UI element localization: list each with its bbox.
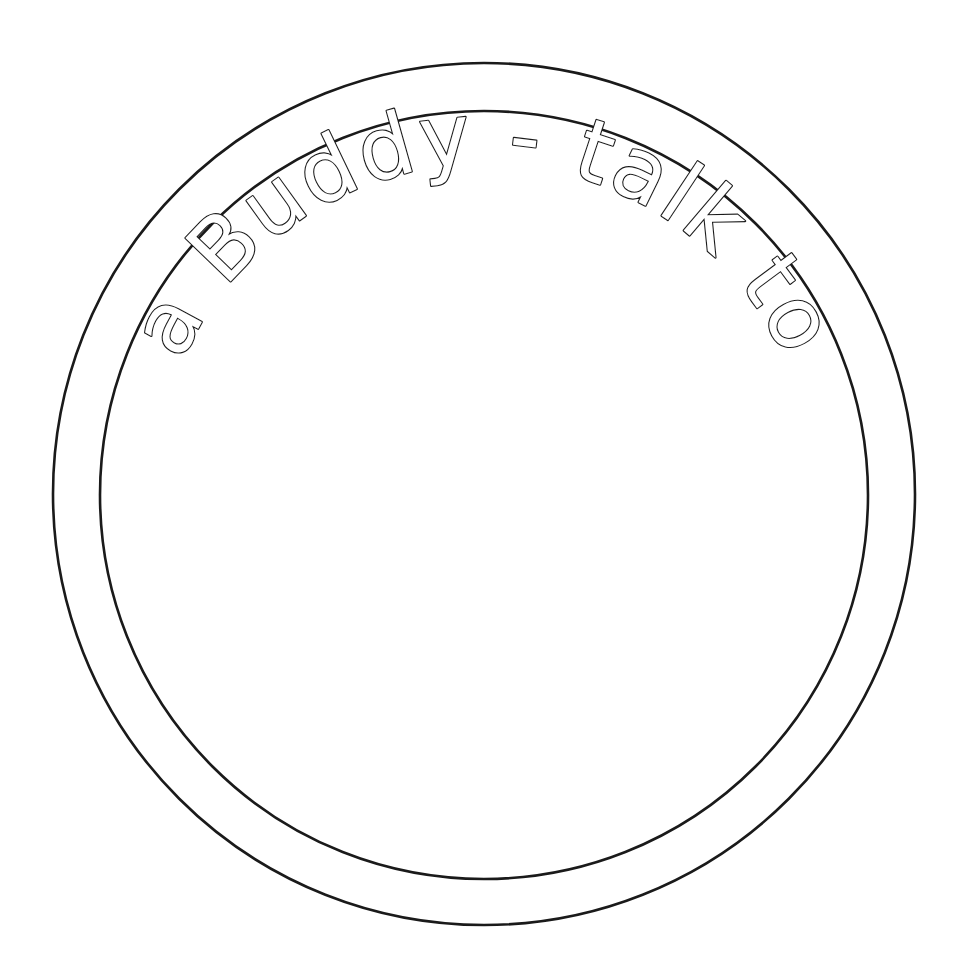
badge-line-art: I'm a Buddy - talk to me bbox=[0, 0, 964, 963]
outer-circle bbox=[53, 63, 915, 925]
curved-slogan-text: I'm a Buddy - talk to me bbox=[0, 0, 872, 397]
coloring-page-canvas: I'm a Buddy - talk to me bbox=[0, 0, 964, 963]
curved-slogan-textpath: I'm a Buddy - talk to me bbox=[0, 0, 872, 397]
